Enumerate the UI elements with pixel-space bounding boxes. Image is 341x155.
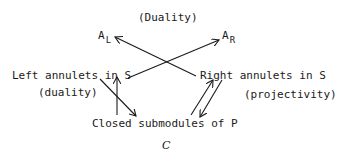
arrow-left-to-ar xyxy=(128,40,219,78)
arrow-closed-to-right xyxy=(191,80,213,115)
arrows-layer xyxy=(0,0,341,155)
arrow-right-to-al xyxy=(115,37,196,76)
arrow-right-to-closed xyxy=(200,80,222,117)
arrow-left-to-closed xyxy=(100,79,136,116)
